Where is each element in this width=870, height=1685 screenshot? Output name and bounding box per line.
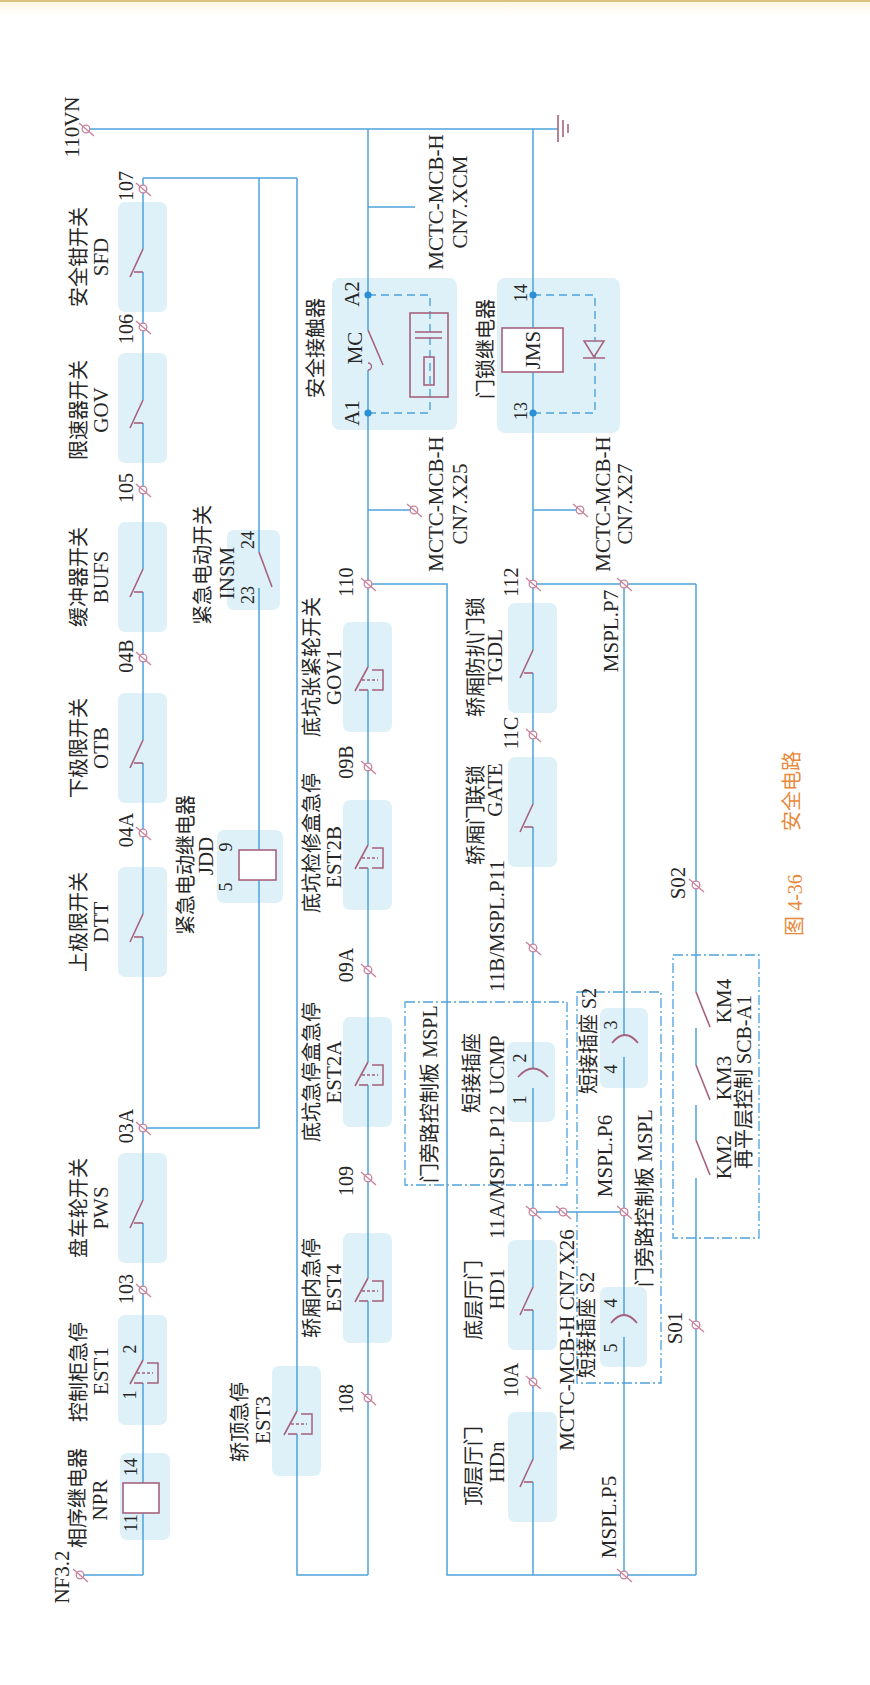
label-est3-name: 轿顶急停 xyxy=(229,1382,251,1462)
label-est3-code: EST3 xyxy=(251,1396,275,1444)
label-est2b-name: 底坑检修盒急停 xyxy=(301,773,323,913)
terminal-label-mspl-p7: MSPL.P7 xyxy=(599,590,623,672)
label-jdd-code: JDD xyxy=(194,837,218,876)
label-gov-code: GOV xyxy=(89,387,113,433)
safety-circuit-diagram: 110VN NF3.2 安全钳开关 SFD 限速器开关 GOV 缓冲器开关 BU… xyxy=(0,0,870,1685)
label-otb-code: OTB xyxy=(89,727,113,769)
pin-label-npr-11: 11 xyxy=(121,1514,141,1531)
pin-label-jms-13: 13 xyxy=(511,402,531,420)
pin-label-a2: A2 xyxy=(340,281,364,307)
pin-label-s2-5: 5 xyxy=(601,1344,621,1353)
pin-label-s2-3: 3 xyxy=(601,1021,621,1030)
pin-label-jms-14: 14 xyxy=(511,284,531,302)
terminal-label-11a: 11A/MSPL.P12 xyxy=(485,1105,509,1239)
pin-dot-a1 xyxy=(364,409,371,416)
label-gov1-name: 底坑张紧轮开关 xyxy=(301,597,323,737)
label-sfd-code: SFD xyxy=(89,238,113,277)
label-hd1-code: HD1 xyxy=(485,1269,509,1310)
terminal-label-108: 108 xyxy=(335,1384,357,1414)
terminal-label-105: 105 xyxy=(115,473,137,503)
figure-title: 安全电路 xyxy=(781,751,803,831)
label-mspl-board-right: 门旁路控制板 MSPL xyxy=(634,1109,656,1286)
terminal-label-11c: 11C xyxy=(500,717,522,750)
label-insm-name: 紧急电动开关 xyxy=(192,505,214,625)
terminal-label-103: 103 xyxy=(115,1274,137,1304)
terminal-label-04b: 04B xyxy=(115,639,137,672)
label-pws-name: 盘车轮开关 xyxy=(68,1158,90,1258)
relay-coil-icon-npr xyxy=(123,1483,159,1513)
pin-label-npr-14: 14 xyxy=(121,1458,141,1476)
figure-number: 图 4-36 xyxy=(784,874,806,936)
terminal-label-106: 106 xyxy=(115,314,137,344)
ground-icon xyxy=(558,115,568,142)
pin-dot-a2 xyxy=(364,291,371,298)
terminal-label-112: 112 xyxy=(500,567,522,596)
terminal-label-s02: S02 xyxy=(666,867,690,900)
terminal-label-110: 110 xyxy=(335,567,357,596)
label-mc-name: 安全接触器 xyxy=(305,298,327,398)
label-est1-code: EST1 xyxy=(89,1347,113,1395)
label-tgdl-code: TGDL xyxy=(483,629,507,685)
terminal-label-03a: 03A xyxy=(115,1108,137,1143)
label-ucmp-name: 短接插座 xyxy=(461,1033,483,1113)
label-gov-name: 限速器开关 xyxy=(68,360,90,460)
label-ucmp-code: UCMP xyxy=(485,1035,509,1095)
pin-label-insm-24: 24 xyxy=(238,531,258,549)
label-x27-board: MCTC-MCB-H xyxy=(591,436,615,571)
label-gov1-code: GOV1 xyxy=(322,649,346,705)
label-s2-upper: 短接插座 S2 xyxy=(578,988,600,1094)
label-hdn-code: HDn xyxy=(485,1441,509,1482)
terminal-label-mspl-p6: MSPL.P6 xyxy=(593,1115,617,1197)
label-est1-name: 控制柜急停 xyxy=(68,1322,90,1422)
label-npr-code: NPR xyxy=(88,1480,112,1521)
no-contact-icon-km4 xyxy=(696,992,710,1027)
terminal-label-s01: S01 xyxy=(663,1312,687,1345)
label-x25-pin: CN7.X25 xyxy=(448,463,472,544)
label-xcm-board: MCTC-MCB-H xyxy=(424,134,448,269)
pin-label-jdd-5: 5 xyxy=(216,883,236,892)
label-sfd-name: 安全钳开关 xyxy=(68,207,90,307)
label-est4-code: EST4 xyxy=(322,1264,346,1312)
pin-label-jdd-9: 9 xyxy=(216,843,236,852)
wire-emergency-electric xyxy=(143,178,259,1128)
label-dtt-code: DTT xyxy=(89,901,113,942)
relay-coil-icon-jdd xyxy=(239,850,276,880)
label-hdn-name: 顶层厅门 xyxy=(463,1426,485,1506)
pin-label-est1-2: 2 xyxy=(120,1345,140,1354)
label-jms-name: 门锁继电器 xyxy=(475,299,497,399)
label-otb-name: 下极限开关 xyxy=(68,698,90,798)
pin-label-est1-1: 1 xyxy=(120,1391,140,1400)
terminal-label-mspl-p5: MSPL.P5 xyxy=(597,1476,621,1558)
label-est2a-name: 底坑急停盒急停 xyxy=(301,1002,323,1142)
label-est4-name: 轿厢内急停 xyxy=(301,1238,323,1338)
label-mc-code: MC xyxy=(343,332,367,365)
label-dtt-name: 上极限开关 xyxy=(68,872,90,972)
label-hd1-name: 底层厅门 xyxy=(463,1260,485,1340)
label-s2-lower: 短接插座 S2 xyxy=(576,1272,598,1378)
pin-label-s2-4b: 4 xyxy=(601,1299,621,1308)
pin-label-a1: A1 xyxy=(340,400,364,426)
no-contact-icon-km3 xyxy=(696,1065,710,1100)
pin-label-insm-23: 23 xyxy=(238,586,258,604)
pin-label-s2-4a: 4 xyxy=(601,1065,621,1074)
label-mspl-board-left: 门旁路控制板 MSPL xyxy=(419,1005,441,1182)
label-est2a-code: EST2A xyxy=(322,1040,346,1104)
label-pws-code: PWS xyxy=(89,1186,113,1229)
terminal-label-09a: 09A xyxy=(335,947,357,982)
label-est2b-code: EST2B xyxy=(322,826,346,888)
label-bufs-code: BUFS xyxy=(89,551,113,604)
label-insm-code: INSM xyxy=(215,546,239,599)
no-contact-icon-km2 xyxy=(696,1140,710,1175)
label-jms-code: JMS xyxy=(521,331,545,370)
terminal-label-10a: 10A xyxy=(500,1362,522,1397)
pin-label-ucmp-2: 2 xyxy=(510,1054,530,1063)
label-bufs-name: 缓冲器开关 xyxy=(68,527,90,627)
supply-label-top: 110VN xyxy=(60,96,84,157)
terminal-label-109: 109 xyxy=(335,1166,357,1196)
label-gate-code: GATE xyxy=(483,763,507,817)
label-npr-name: 相序继电器 xyxy=(67,1448,89,1548)
label-scb-a1-board: 再平层控制 SCB-A1 xyxy=(733,995,755,1169)
label-xcm-pin: CN7.XCM xyxy=(448,155,472,248)
label-x25-board: MCTC-MCB-H xyxy=(424,436,448,571)
label-x27-pin: CN7.X27 xyxy=(613,463,637,544)
